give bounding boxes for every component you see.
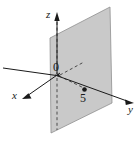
x-axis-label: x [12,90,17,101]
shaded-plane [50,7,112,133]
origin-label: 0 [53,61,59,73]
figure-canvas: x y z 0 5 [0,0,139,150]
z-axis-arrowhead-icon [54,12,59,21]
z-axis-label: z [46,9,50,20]
origin-marker [58,74,60,76]
coordinate-system-diagram [0,0,139,150]
y-axis-label: y [128,104,133,115]
marked-point-label: 5 [80,92,86,104]
